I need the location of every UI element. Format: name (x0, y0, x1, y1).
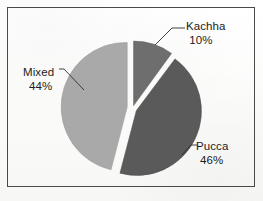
pie-label-pucca-value: 46% (196, 154, 228, 168)
pie-slice-mixed[interactable] (61, 42, 127, 169)
pie-chart-figure: Kachha 10% Mixed 44% Pucca 46% (0, 0, 263, 201)
pie-label-mixed-value: 44% (23, 80, 54, 94)
pie-label-pucca-name: Pucca (196, 140, 228, 154)
pie-label-mixed: Mixed 44% (23, 66, 54, 93)
pie-label-mixed-name: Mixed (23, 66, 54, 80)
pie-label-kachha-value: 10% (186, 34, 226, 48)
pie-label-pucca: Pucca 46% (196, 140, 228, 167)
chart-plot-area: Kachha 10% Mixed 44% Pucca 46% (0, 0, 263, 201)
pie-label-kachha-name: Kachha (186, 20, 226, 34)
pie-label-kachha: Kachha 10% (186, 20, 226, 47)
pie-slice-pucca[interactable] (120, 59, 201, 176)
leader-line-kachha (155, 28, 185, 45)
